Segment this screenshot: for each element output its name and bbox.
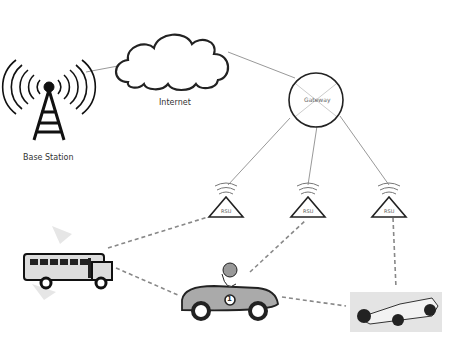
rsu-label-2: RSU (303, 208, 313, 214)
race-car-number: 1 (227, 295, 232, 303)
network-diagram (0, 0, 457, 341)
rsu-label-1: RSU (221, 208, 231, 214)
gateway-label: Gateway (304, 96, 331, 103)
internet-label: Internet (159, 98, 191, 107)
race-car-icon (182, 263, 278, 319)
rsu-label-3: RSU (384, 208, 394, 214)
base-station-label: Base Station (23, 153, 73, 162)
formula-car-icon (350, 292, 442, 332)
bus-icon (24, 226, 112, 300)
internet-cloud-icon (116, 35, 228, 90)
base-station-icon (3, 60, 96, 140)
